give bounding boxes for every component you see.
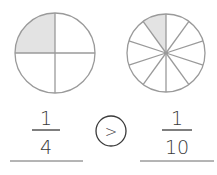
numerator: 1	[171, 107, 183, 129]
numerator: 1	[40, 107, 52, 129]
circle-quarters	[15, 13, 95, 93]
circle-tenths	[127, 14, 205, 92]
comparison-symbol[interactable]: >	[96, 116, 126, 146]
greater-than-icon: >	[105, 123, 118, 141]
fraction-comparison-figure: 1 4 > 1 10	[0, 0, 217, 175]
fraction-one-quarter: 1 4	[10, 107, 83, 161]
denominator: 10	[165, 136, 189, 158]
denominator: 4	[40, 136, 52, 158]
fraction-one-tenth: 1 10	[140, 107, 214, 161]
